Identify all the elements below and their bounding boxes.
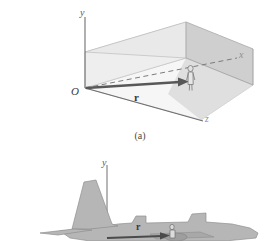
vector-r-label-panel-b: r bbox=[136, 222, 140, 232]
airplane-engine bbox=[165, 233, 187, 241]
z-axis-label: z bbox=[205, 115, 209, 125]
y-axis-label-panel-b: y bbox=[102, 158, 106, 168]
person-figure-panel-b bbox=[170, 224, 175, 238]
panel-a-caption: (a) bbox=[0, 131, 280, 141]
airplane-tail-fin bbox=[72, 180, 118, 229]
room-diagram-svg bbox=[0, 0, 280, 150]
panel-b-airplane-diagram: y r bbox=[0, 150, 280, 241]
panel-a-room-diagram: y x z O r (a) bbox=[0, 0, 280, 150]
origin-label: O bbox=[71, 86, 79, 97]
figure-root: y x z O r (a) bbox=[0, 0, 280, 241]
vector-r-label-panel-a: r bbox=[134, 92, 139, 103]
x-axis-label: x bbox=[239, 50, 243, 60]
y-axis-label: y bbox=[80, 8, 84, 18]
